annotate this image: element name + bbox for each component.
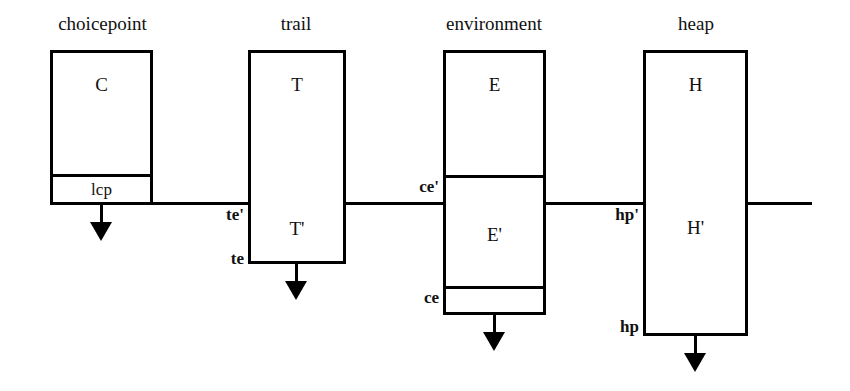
cell-label-heap-lower: H': [643, 218, 748, 237]
cell-label-trail-upper: T: [248, 75, 346, 94]
cell-label-heap-upper: H: [643, 75, 748, 94]
cell-label-trail-lower: T': [248, 219, 346, 238]
cell-label-choicepoint-upper: C: [50, 75, 153, 94]
side-label-environment-ce-prime: ce': [385, 178, 439, 195]
down-arrow-choicepoint-icon: [90, 222, 112, 241]
side-label-trail-te: te: [190, 250, 244, 267]
side-label-heap-hp-prime: hp': [582, 206, 639, 223]
down-arrow-environment-icon: [483, 332, 505, 351]
divider-environment-upper: [443, 175, 546, 178]
column-title-heap: heap: [640, 14, 752, 33]
down-arrow-trail-icon: [285, 281, 307, 300]
column-title-trail: trail: [236, 14, 356, 33]
side-label-heap-hp: hp: [582, 318, 639, 335]
side-label-environment-ce: ce: [385, 289, 439, 306]
down-arrow-heap-icon: [684, 353, 706, 372]
cell-label-environment-lower: E': [443, 225, 546, 244]
cell-label-choicepoint-lower: lcp: [50, 180, 153, 199]
side-label-trail-te-prime: te': [190, 206, 244, 223]
column-title-environment: environment: [408, 14, 580, 33]
diagram-canvas: choicepoint trail environment heap C lcp…: [0, 0, 850, 391]
column-title-choicepoint: choicepoint: [20, 14, 185, 33]
divider-environment-lower: [443, 286, 546, 289]
divider-choicepoint-lcp: [50, 174, 153, 177]
cell-label-environment-upper: E: [443, 75, 546, 94]
